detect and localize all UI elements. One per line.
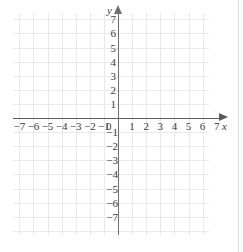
origin-label: 0 — [106, 120, 112, 132]
y-tick-label: −5 — [102, 183, 118, 195]
x-tick-label: 1 — [125, 120, 139, 132]
y-tick-label: −6 — [102, 197, 118, 209]
x-tick-label: −4 — [55, 120, 69, 132]
x-tick-label: 5 — [182, 120, 196, 132]
x-tick-label: 6 — [196, 120, 210, 132]
y-tick-label: −4 — [102, 168, 118, 180]
x-tick-label: 3 — [153, 120, 167, 132]
y-tick-label: 3 — [102, 70, 116, 82]
x-tick-label: −2 — [83, 120, 97, 132]
x-tick-label: −7 — [12, 120, 26, 132]
x-tick-label: −3 — [69, 120, 83, 132]
x-tick-label: 2 — [139, 120, 153, 132]
y-tick-label: 6 — [102, 27, 116, 39]
y-tick-label: 4 — [102, 56, 116, 68]
x-tick-label: −5 — [41, 120, 55, 132]
y-tick-label: 2 — [102, 84, 116, 96]
y-axis-line — [118, 12, 119, 235]
y-tick-label: 5 — [102, 42, 116, 54]
y-tick-label: −3 — [102, 154, 118, 166]
x-axis-label: x — [222, 120, 227, 132]
x-tick-label: −6 — [26, 120, 40, 132]
y-tick-label: −2 — [102, 140, 118, 152]
coordinate-plane: −7−6−5−4−3−2−11234567 7654321−1−2−3−4−5−… — [0, 0, 243, 252]
y-tick-label: 1 — [102, 98, 116, 110]
y-tick-label: −7 — [102, 211, 118, 223]
page-edge-rule — [238, 0, 239, 252]
x-tick-label: 4 — [167, 120, 181, 132]
y-axis-label: y — [107, 4, 112, 16]
